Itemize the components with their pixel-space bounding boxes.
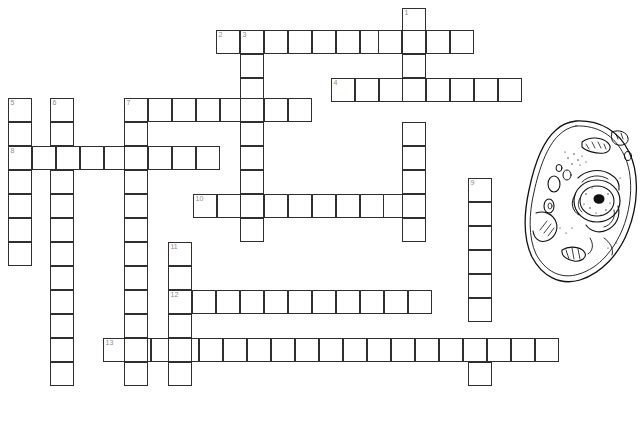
crossword-cell[interactable] — [148, 98, 172, 122]
crossword-cell-start-5[interactable]: 5 — [8, 98, 32, 122]
crossword-cell[interactable] — [50, 314, 74, 338]
crossword-cell[interactable] — [124, 242, 148, 266]
crossword-cell[interactable] — [196, 98, 220, 122]
crossword-cell[interactable] — [402, 54, 426, 78]
crossword-cell[interactable] — [50, 338, 74, 362]
crossword-cell[interactable] — [240, 290, 264, 314]
crossword-cell[interactable] — [343, 338, 367, 362]
crossword-cell[interactable] — [240, 146, 264, 170]
crossword-cell[interactable] — [50, 266, 74, 290]
crossword-cell[interactable] — [439, 338, 463, 362]
crossword-cell-start-11[interactable]: 11 — [168, 242, 192, 266]
crossword-cell[interactable] — [216, 290, 240, 314]
crossword-cell[interactable] — [367, 338, 391, 362]
crossword-cell[interactable] — [391, 338, 415, 362]
crossword-cell[interactable] — [124, 194, 148, 218]
crossword-cell[interactable] — [240, 54, 264, 78]
crossword-cell[interactable] — [8, 242, 32, 266]
crossword-cell[interactable] — [8, 170, 32, 194]
crossword-cell[interactable] — [288, 30, 312, 54]
crossword-cell[interactable] — [247, 338, 271, 362]
crossword-cell[interactable] — [168, 314, 192, 338]
crossword-cell-start-7[interactable]: 7 — [124, 98, 148, 122]
crossword-cell[interactable] — [450, 30, 474, 54]
crossword-cell-start-9[interactable]: 9 — [468, 178, 492, 202]
crossword-cell[interactable] — [148, 146, 172, 170]
crossword-cell[interactable] — [288, 194, 312, 218]
crossword-cell[interactable] — [468, 362, 492, 386]
crossword-cell[interactable] — [223, 338, 247, 362]
crossword-cell[interactable] — [124, 146, 148, 170]
crossword-cell[interactable] — [402, 170, 426, 194]
crossword-cell[interactable] — [32, 146, 56, 170]
crossword-cell[interactable] — [56, 146, 80, 170]
crossword-cell[interactable] — [240, 98, 264, 122]
crossword-cell[interactable] — [124, 266, 148, 290]
crossword-cell[interactable] — [192, 290, 216, 314]
crossword-cell[interactable] — [8, 122, 32, 146]
crossword-cell[interactable] — [384, 290, 408, 314]
crossword-cell[interactable] — [124, 122, 148, 146]
crossword-cell[interactable] — [402, 78, 426, 102]
crossword-cell-start-4[interactable]: 4 — [331, 78, 355, 102]
crossword-cell[interactable] — [487, 338, 511, 362]
crossword-cell[interactable] — [124, 290, 148, 314]
crossword-cell[interactable] — [402, 146, 426, 170]
crossword-cell[interactable] — [378, 30, 402, 54]
crossword-cell-start-1[interactable]: 1 — [402, 8, 426, 32]
crossword-cell[interactable] — [402, 218, 426, 242]
crossword-cell[interactable] — [50, 362, 74, 386]
crossword-cell[interactable] — [240, 218, 264, 242]
crossword-cell[interactable] — [50, 170, 74, 194]
crossword-cell[interactable] — [474, 78, 498, 102]
crossword-cell[interactable] — [50, 290, 74, 314]
crossword-cell[interactable] — [124, 170, 148, 194]
crossword-cell[interactable] — [498, 78, 522, 102]
crossword-cell[interactable] — [199, 338, 223, 362]
crossword-cell[interactable] — [240, 122, 264, 146]
crossword-cell[interactable] — [50, 218, 74, 242]
crossword-cell[interactable] — [264, 30, 288, 54]
crossword-cell-start-3[interactable]: 3 — [240, 30, 264, 54]
crossword-cell-start-6[interactable]: 6 — [50, 98, 74, 122]
crossword-cell[interactable] — [379, 78, 403, 102]
crossword-cell[interactable] — [240, 170, 264, 194]
crossword-cell[interactable] — [360, 290, 384, 314]
crossword-cell[interactable] — [408, 290, 432, 314]
crossword-cell[interactable] — [240, 194, 264, 218]
crossword-cell[interactable] — [468, 202, 492, 226]
crossword-cell[interactable] — [355, 78, 379, 102]
crossword-cell[interactable] — [8, 218, 32, 242]
crossword-cell[interactable] — [450, 78, 474, 102]
crossword-cell-start-10[interactable]: 10 — [193, 194, 217, 218]
crossword-cell[interactable] — [168, 338, 192, 362]
crossword-cell[interactable] — [271, 338, 295, 362]
crossword-cell[interactable] — [50, 194, 74, 218]
crossword-cell[interactable] — [124, 338, 148, 362]
crossword-cell[interactable] — [312, 290, 336, 314]
crossword-cell[interactable] — [402, 30, 426, 54]
crossword-cell[interactable] — [288, 98, 312, 122]
crossword-cell-start-12[interactable]: 12 — [168, 290, 192, 314]
crossword-cell[interactable] — [535, 338, 559, 362]
crossword-cell[interactable] — [511, 338, 535, 362]
crossword-cell[interactable] — [8, 194, 32, 218]
crossword-cell[interactable] — [124, 314, 148, 338]
crossword-cell-start-8[interactable]: 8 — [8, 146, 32, 170]
crossword-cell[interactable] — [468, 226, 492, 250]
crossword-cell[interactable] — [50, 242, 74, 266]
crossword-cell[interactable] — [172, 146, 196, 170]
crossword-cell[interactable] — [80, 146, 104, 170]
crossword-cell[interactable] — [288, 290, 312, 314]
crossword-cell[interactable] — [336, 30, 360, 54]
crossword-cell[interactable] — [312, 30, 336, 54]
crossword-cell[interactable] — [168, 266, 192, 290]
crossword-cell[interactable] — [426, 30, 450, 54]
crossword-cell[interactable] — [402, 122, 426, 146]
crossword-cell[interactable] — [264, 98, 288, 122]
crossword-cell[interactable] — [124, 362, 148, 386]
crossword-cell[interactable] — [295, 338, 319, 362]
crossword-cell[interactable] — [336, 194, 360, 218]
crossword-cell-start-2[interactable]: 2 — [216, 30, 240, 54]
crossword-cell[interactable] — [468, 274, 492, 298]
